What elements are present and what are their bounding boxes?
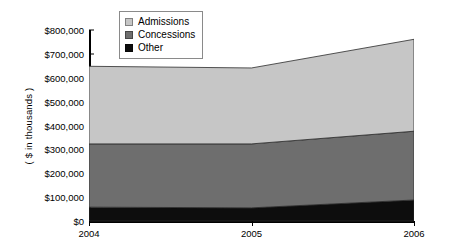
x-axis-tick-mark xyxy=(414,221,415,226)
y-axis-tick-label: $800,000 xyxy=(44,25,84,36)
x-axis-tick-label: 2006 xyxy=(403,228,424,239)
y-axis-tick-label: $100,000 xyxy=(44,192,84,203)
y-axis-tick-label: $600,000 xyxy=(44,72,84,83)
y-axis-tick-label: $700,000 xyxy=(44,48,84,59)
legend-item-label: Admissions xyxy=(138,15,189,28)
x-axis-tick-mark xyxy=(252,221,253,226)
y-axis-tick-label: $500,000 xyxy=(44,96,84,107)
y-axis-tick-label: $400,000 xyxy=(44,120,84,131)
stacked-area-chart: ( $ in thousands ) $0$100,000$200,000$30… xyxy=(0,0,454,252)
y-axis-tick-label: $300,000 xyxy=(44,144,84,155)
y-axis-tick-labels: $0$100,000$200,000$300,000$400,000$500,0… xyxy=(0,30,84,221)
x-axis-tick-label: 2005 xyxy=(241,228,262,239)
legend-item: Concessions xyxy=(125,28,195,41)
legend-swatch-icon xyxy=(125,44,133,52)
legend-swatch-icon xyxy=(125,31,133,39)
legend-item: Other xyxy=(125,41,195,54)
x-axis-tick-label: 2004 xyxy=(78,228,99,239)
legend-item-label: Concessions xyxy=(138,28,195,41)
legend-item: Admissions xyxy=(125,15,195,28)
y-axis-tick-label: $0 xyxy=(73,216,84,227)
x-axis-tick-mark xyxy=(89,221,90,226)
chart-legend: AdmissionsConcessionsOther xyxy=(119,11,203,59)
legend-item-label: Other xyxy=(138,41,163,54)
y-axis-tick-label: $200,000 xyxy=(44,168,84,179)
legend-swatch-icon xyxy=(125,18,133,26)
